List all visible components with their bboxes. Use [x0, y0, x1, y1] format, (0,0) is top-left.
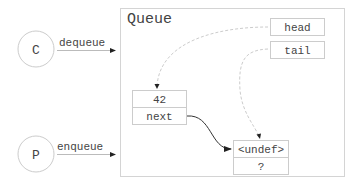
node-1-next: next [146, 111, 172, 123]
queue-diagram: Queue C dequeue P enqueue head tail [0, 0, 356, 187]
enqueue-label: enqueue [57, 141, 103, 153]
queue-title: Queue [127, 11, 172, 28]
dequeue-label: dequeue [59, 37, 105, 49]
node-2-next: ? [258, 161, 265, 173]
consumer-actor: C [18, 31, 54, 67]
head-pointer: head [271, 19, 325, 36]
enqueue-edge: enqueue [57, 141, 115, 155]
tail-pointer: tail [271, 42, 325, 59]
consumer-label: C [32, 43, 40, 58]
head-label: head [284, 22, 310, 34]
node-1-value: 42 [153, 94, 166, 106]
producer-label: P [32, 148, 40, 163]
node-1: 42 next [133, 91, 187, 125]
node-2: <undef> ? [234, 141, 289, 175]
producer-actor: P [18, 136, 54, 172]
tail-label: tail [284, 45, 310, 57]
dequeue-edge: dequeue [57, 37, 115, 51]
node-2-value: <undef> [238, 144, 284, 156]
